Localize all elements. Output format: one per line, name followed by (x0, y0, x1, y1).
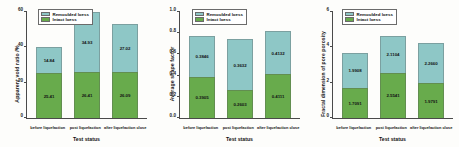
legend-swatch-remoulded-icon (195, 12, 204, 16)
y-tick-label: 0.6 (170, 49, 176, 54)
legend-item-remoulded-2: Remoulded loess (195, 12, 243, 17)
legend-item-intact-1: Intact loess (41, 17, 89, 22)
bar-value-intact: 1.7091 (348, 101, 361, 106)
y-axis-title-3: Fractal dimension of pore porosity (320, 24, 326, 124)
bar-value-remoulded: 0.3632 (233, 63, 246, 68)
stacked-bar[interactable]: 27.02 26.09 (112, 12, 138, 118)
legend-label-intact: Intact loess (207, 17, 231, 22)
y-tick-label: 2 (326, 78, 329, 83)
legend-swatch-remoulded-icon (345, 12, 354, 16)
bar-value-remoulded: 1.9908 (348, 68, 361, 73)
legend-item-intact-3: Intact loess (345, 17, 393, 22)
x-tick-label: after liquefaction close (104, 126, 144, 130)
y-tick-label: 0 (20, 113, 23, 118)
y-tick-label: 1.0 (170, 7, 176, 12)
y-tick-label: 0.2 (170, 92, 176, 97)
legend-2: Remoulded loess Intact loess (192, 9, 247, 25)
x-tick-label: after liquefaction close (410, 126, 450, 130)
bar-group-1: 14.84 25.41 34.93 26.41 27.02 26.09 (27, 12, 147, 118)
x-tick-label: after liquefaction close (257, 126, 297, 130)
stacked-bar[interactable]: 2.1104 2.5541 (380, 12, 406, 118)
x-tick-label: post liquefaction (67, 126, 105, 130)
bar-value-remoulded: 2.1104 (387, 52, 400, 57)
legend-swatch-intact-icon (41, 17, 50, 21)
legend-label-intact: Intact loess (53, 17, 77, 22)
stacked-bar[interactable]: 0.4132 0.4111 (265, 12, 291, 118)
x-tick-label: before liquefaction (29, 126, 67, 130)
plot-area-1: 0 20 40 60 14.84 25.41 34.93 26.41 27.02… (26, 12, 147, 119)
legend-label-remoulded: Remoulded loess (207, 12, 243, 17)
x-axis-categories-3: before liquefaction post liquefaction af… (332, 126, 453, 130)
legend-3: Remoulded loess Intact loess (342, 9, 397, 25)
legend-label-remoulded: Remoulded loess (357, 12, 393, 17)
bar-group-2: 0.3846 0.3905 0.3632 0.2603 0.4132 0.411… (180, 12, 300, 118)
x-axis-title-1: Test status (26, 136, 147, 142)
bar-group-3: 1.9908 1.7091 2.1104 2.5541 2.2660 1.979… (333, 12, 453, 118)
x-axis-title-2: Test status (179, 136, 300, 142)
y-tick-label: 0.4 (170, 71, 176, 76)
plot-area-2: 0.0 0.2 0.4 0.6 0.8 1.0 0.3846 0.3905 0.… (179, 12, 300, 119)
legend-swatch-intact-icon (195, 17, 204, 21)
y-tick-label: 20 (18, 78, 23, 83)
x-tick-label: before liquefaction (182, 126, 220, 130)
chart-panel-2: Average shape factor Remoulded loess Int… (153, 0, 306, 147)
x-tick-label: post liquefaction (220, 126, 258, 130)
y-tick-label: 40 (18, 42, 23, 47)
x-tick-label: before liquefaction (335, 126, 373, 130)
y-tick-label: 4 (326, 42, 329, 47)
stacked-bar[interactable]: 14.84 25.41 (36, 12, 62, 118)
bar-value-intact: 0.4111 (272, 94, 285, 99)
chart-panel-1: Apparent void ratio /% Remoulded loess I… (0, 0, 153, 147)
bar-value-remoulded: 34.93 (82, 40, 93, 45)
y-tick-label: 0.0 (170, 113, 176, 118)
stacked-bar[interactable]: 0.3632 0.2603 (227, 12, 253, 118)
stacked-bar[interactable]: 2.2660 1.9791 (418, 12, 444, 118)
plot-area-3: 0 2 4 6 1.9908 1.7091 2.1104 2.5541 2.26… (332, 12, 453, 119)
y-axis-title-1: Apparent void ratio /% (14, 24, 20, 124)
legend-item-intact-2: Intact loess (195, 17, 243, 22)
x-axis-title-3: Test status (332, 136, 453, 142)
legend-item-remoulded-3: Remoulded loess (345, 12, 393, 17)
stacked-bar[interactable]: 1.9908 1.7091 (342, 12, 368, 118)
bar-value-remoulded: 0.3846 (195, 54, 208, 59)
legend-label-remoulded: Remoulded loess (53, 12, 89, 17)
x-axis-categories-1: before liquefaction post liquefaction af… (26, 126, 147, 130)
bar-value-intact: 25.41 (44, 94, 55, 99)
y-tick-label: 6 (326, 7, 329, 12)
stacked-bar[interactable]: 34.93 26.41 (74, 12, 100, 118)
bar-value-intact: 1.9791 (424, 99, 437, 104)
legend-swatch-remoulded-icon (41, 12, 50, 16)
bar-value-remoulded: 2.2660 (424, 61, 437, 66)
y-tick-label: 0.8 (170, 28, 176, 33)
x-tick-label: post liquefaction (373, 126, 411, 130)
y-tick-label: 60 (18, 7, 23, 12)
bar-value-remoulded: 27.02 (120, 46, 131, 51)
stacked-bar[interactable]: 0.3846 0.3905 (189, 12, 215, 118)
figure-panel-row: Apparent void ratio /% Remoulded loess I… (0, 0, 459, 147)
bar-value-remoulded: 14.84 (44, 58, 55, 63)
x-axis-categories-2: before liquefaction post liquefaction af… (179, 126, 300, 130)
legend-label-intact: Intact loess (357, 17, 381, 22)
y-tick-label: 0 (326, 113, 329, 118)
legend-item-remoulded-1: Remoulded loess (41, 12, 89, 17)
legend-1: Remoulded loess Intact loess (38, 9, 93, 25)
bar-value-remoulded: 0.4132 (271, 51, 284, 56)
chart-panel-3: Fractal dimension of pore porosity Remou… (306, 0, 459, 147)
bar-value-intact: 0.2603 (233, 102, 246, 107)
bar-value-intact: 26.09 (120, 93, 131, 98)
bar-value-intact: 2.5541 (386, 93, 399, 98)
bar-value-intact: 26.41 (82, 93, 93, 98)
bar-value-intact: 0.3905 (195, 95, 208, 100)
legend-swatch-intact-icon (345, 17, 354, 21)
